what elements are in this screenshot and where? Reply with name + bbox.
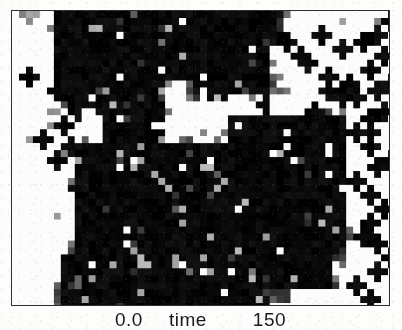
scatter-plot-canvas: [12, 11, 389, 305]
x-axis-min-tick: 0.0: [115, 309, 143, 330]
x-axis-name: time: [169, 309, 207, 330]
figure-container: 0.0time150: [0, 0, 402, 330]
plot-frame: [11, 10, 390, 306]
x-axis-label: 0.0time150: [11, 309, 390, 330]
x-axis-max-tick: 150: [253, 309, 286, 330]
